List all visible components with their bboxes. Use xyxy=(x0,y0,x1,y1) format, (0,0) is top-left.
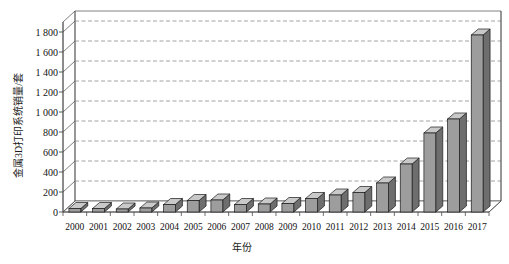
x-axis-tick-label: 2004 xyxy=(160,222,179,232)
x-axis-tick-label: 2015 xyxy=(420,222,439,232)
x-axis-tick-label: 2010 xyxy=(302,222,321,232)
x-axis-tick-label: 2012 xyxy=(349,222,368,232)
x-axis-tick-label: 2003 xyxy=(136,222,155,232)
x-axis-tick-label: 2008 xyxy=(255,222,274,232)
x-axis-tick-label: 2013 xyxy=(373,222,392,232)
x-axis-tick-label: 2001 xyxy=(89,222,108,232)
x-axis-tick-label: 2005 xyxy=(184,222,203,232)
x-axis-tick-label: 2016 xyxy=(444,222,463,232)
x-axis-tick-label: 2006 xyxy=(207,222,226,232)
x-axis-tick-label: 2014 xyxy=(397,222,416,232)
x-axis-tick-label: 2000 xyxy=(65,222,84,232)
x-axis-tick-label: 2017 xyxy=(468,222,487,232)
x-axis-title: 年份 xyxy=(232,239,252,254)
x-axis-tick-label: 2011 xyxy=(326,222,345,232)
x-axis-tick-label: 2002 xyxy=(113,222,132,232)
x-axis-tick-labels: 2000200120022003200420052006200720082009… xyxy=(0,0,509,264)
x-axis-tick-label: 2009 xyxy=(278,222,297,232)
chart-container: 金属3D打印系统销量/套 02004006008001 0001 2001 40… xyxy=(0,0,509,264)
x-axis-tick-label: 2007 xyxy=(231,222,250,232)
